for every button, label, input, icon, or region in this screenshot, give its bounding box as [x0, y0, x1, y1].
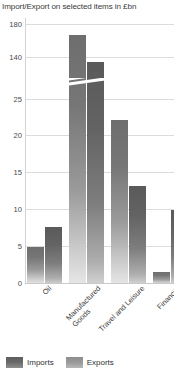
gridline-180	[25, 24, 174, 25]
legend-label-exports: Exports	[87, 358, 114, 367]
y-tick-15: 15	[0, 168, 22, 177]
plot-area	[25, 18, 174, 284]
y-tick-20: 20	[0, 131, 22, 140]
legend-label-imports: Imports	[27, 358, 54, 367]
bar-travel-and-leisure-imports	[111, 120, 128, 284]
imports-swatch-icon	[6, 357, 23, 368]
x-axis-category-labels: Oil Manufactured Goods Travel and Leisur…	[0, 284, 174, 346]
chart-title: Import/Export on selected items in £bn	[2, 2, 174, 11]
bar-oil-imports	[27, 247, 44, 284]
x-label-oil-line1: Oil	[41, 284, 54, 297]
chart-container: Import/Export on selected items in £bn 1…	[0, 0, 174, 376]
y-tick-140: 140	[0, 53, 22, 62]
bar-oil-exports	[45, 227, 62, 284]
exports-swatch-icon	[66, 357, 83, 368]
bar-travel-and-leisure-exports	[129, 186, 146, 284]
bar-manufactured-goods-exports	[87, 62, 104, 284]
x-label-financial: Financial	[155, 284, 174, 311]
x-label-financial-line1: Financial	[155, 284, 174, 311]
x-label-oil: Oil	[41, 284, 54, 297]
legend-item-imports[interactable]: Imports	[6, 357, 54, 368]
legend-item-exports[interactable]: Exports	[66, 357, 114, 368]
y-tick-25: 25	[0, 95, 22, 104]
bar-manufactured-goods-imports	[69, 35, 86, 284]
gridline-140	[25, 57, 174, 58]
bar-financial-exports	[171, 210, 174, 284]
chart-legend: Imports Exports	[6, 352, 174, 372]
y-tick-5: 5	[0, 242, 22, 251]
y-axis-line	[25, 18, 26, 284]
y-tick-10: 10	[0, 205, 22, 214]
y-tick-180: 180	[0, 20, 22, 29]
